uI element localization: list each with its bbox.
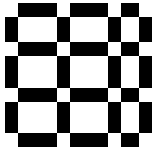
node-r1-c3 bbox=[108, 3, 121, 17]
grid-svg bbox=[0, 0, 154, 158]
node-r2-c2 bbox=[57, 42, 70, 56]
patch-bottom-margin bbox=[0, 147, 154, 151]
node-r3-c3 bbox=[108, 88, 121, 102]
h-bar-4 bbox=[0, 133, 154, 147]
h-bar-1 bbox=[0, 3, 154, 17]
node-r4-c2 bbox=[57, 133, 70, 147]
node-r3-c2 bbox=[57, 88, 70, 102]
node-r4-c1 bbox=[5, 133, 18, 147]
node-r3-c1 bbox=[5, 88, 18, 102]
patch-right-margin bbox=[152, 0, 154, 158]
patch-top-margin bbox=[0, 0, 154, 3]
h-bar-2 bbox=[0, 42, 154, 56]
node-r1-c2 bbox=[57, 3, 70, 17]
illusion-image-canvas: Black and white checkered grid pattern w… bbox=[0, 0, 154, 158]
node-r1-c1 bbox=[5, 3, 18, 17]
node-r2-c1 bbox=[5, 42, 18, 56]
node-r2-c3 bbox=[108, 42, 121, 56]
node-r1-c4 bbox=[139, 3, 152, 17]
hermann-grid-figure bbox=[0, 0, 154, 158]
h-bar-3 bbox=[0, 88, 154, 102]
node-r2-c4 bbox=[139, 42, 152, 56]
node-r3-c4 bbox=[139, 88, 152, 102]
node-r4-c4 bbox=[139, 133, 152, 147]
patch-left-margin bbox=[0, 0, 5, 158]
patch-bottom-strip bbox=[0, 151, 154, 158]
node-r4-c3 bbox=[108, 133, 121, 147]
